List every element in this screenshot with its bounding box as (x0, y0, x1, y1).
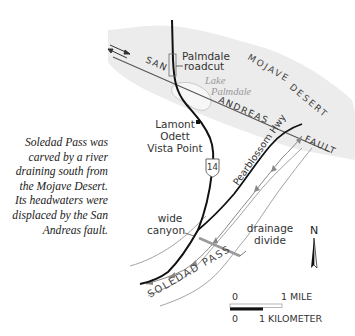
label-wide: wide (158, 212, 183, 224)
label-palmdale-lake: Palmdale (210, 86, 252, 97)
label-drainage: drainage (247, 222, 294, 234)
label-lamont: Lamont (155, 118, 195, 130)
scale-mile-bar (230, 304, 282, 308)
label-odett: Odett (160, 130, 190, 142)
north-label: N (310, 224, 318, 237)
scale-km-label: 1 KILOMETER (259, 313, 323, 324)
label-roadcut: roadcut (184, 60, 224, 72)
label-canyon: canyon (147, 224, 185, 236)
scale-km-bar (230, 308, 263, 311)
label-soledad-pass: SOLEDAD PASS (146, 243, 233, 300)
ancient-river-line (146, 136, 302, 284)
drainage-divide-leader (240, 251, 246, 256)
soledad-pass-map: Palmdale roadcut Lake Palmdale MOJAVE DE… (0, 0, 355, 336)
scale-bar: 0 1 MILE 0 1 KILOMETER (230, 291, 323, 324)
route-14-number: 14 (207, 162, 218, 172)
scale-mile-label: 1 MILE (281, 291, 312, 302)
north-arrow-icon: N (310, 224, 318, 268)
scale-mile-zero: 0 (232, 291, 238, 302)
label-vista-point: Vista Point (147, 142, 202, 154)
river-flow-arrows-icon (146, 136, 302, 285)
label-divide: divide (254, 234, 286, 246)
label-lake: Lake (204, 75, 226, 86)
scale-km-zero: 0 (232, 313, 238, 324)
vista-point-marker (196, 120, 200, 124)
